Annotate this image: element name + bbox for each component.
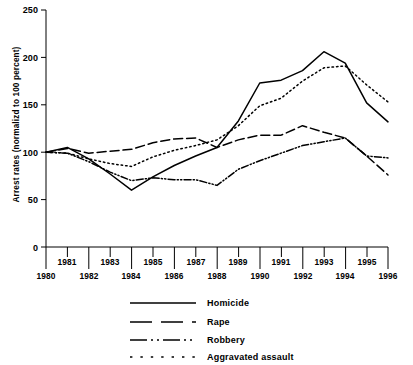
x-tick-label-1980: 1980 [29,271,63,281]
legend-label-aggravated-assault: Aggravated assault [207,352,294,362]
legend-label-homicide: Homicide [207,298,249,308]
series-line-aggravated-assault [46,66,388,166]
x-tick-label-1992: 1992 [286,271,320,281]
legend-samples [130,303,196,357]
x-tick-label-1994: 1994 [328,271,362,281]
legend-label-robbery: Robbery [207,335,245,345]
x-tick-label-1989: 1989 [221,257,255,267]
x-tick-label-1982: 1982 [72,271,106,281]
plot-area [0,0,413,365]
series-line-robbery [46,138,388,185]
x-tick-label-1993: 1993 [307,257,341,267]
series-line-homicide [46,52,388,190]
x-tick-label-1986: 1986 [157,271,191,281]
legend-label-rape: Rape [207,317,230,327]
x-tick-label-1988: 1988 [200,271,234,281]
x-tick-label-1983: 1983 [93,257,127,267]
x-tick-label-1985: 1985 [136,257,170,267]
chart-figure: Arrest rates (normalizd to 100 percent) … [0,0,413,365]
x-tick-label-1987: 1987 [179,257,213,267]
x-tick-label-1990: 1990 [243,271,277,281]
data-series-group [46,52,388,190]
x-tick-label-1981: 1981 [50,257,84,267]
y-axis-ticks [41,10,46,247]
series-line-rape [46,126,388,175]
x-tick-label-1991: 1991 [264,257,298,267]
x-tick-label-1996: 1996 [371,271,405,281]
x-tick-label-1984: 1984 [114,271,148,281]
x-tick-label-1995: 1995 [350,257,384,267]
